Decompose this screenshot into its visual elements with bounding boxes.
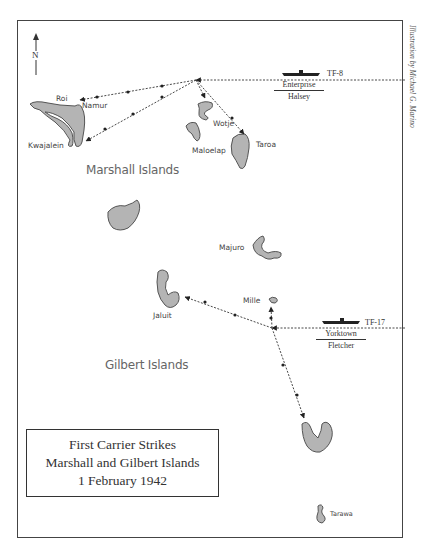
title-line-3: 1 February 1942 <box>27 472 218 490</box>
island-mille <box>269 297 277 303</box>
label-taroa: Taroa <box>256 140 276 149</box>
label-roi: Roi <box>56 94 68 103</box>
label-kwajalein: Kwajalein <box>28 141 64 150</box>
illustration-credit: Illustration by Michael G. Marino <box>408 25 417 128</box>
region-gilbert: Gilbert Islands <box>105 358 188 372</box>
island-majuro <box>253 236 281 259</box>
north-label: N <box>32 51 39 60</box>
region-marshall: Marshall Islands <box>86 163 179 177</box>
map-title-box: First Carrier Strikes Marshall and Gilbe… <box>26 429 219 497</box>
tf8-carrier: Enterprise <box>274 80 324 91</box>
label-wotje: Wotje <box>213 119 234 128</box>
label-mille: Mille <box>243 296 260 305</box>
carrier-icons <box>282 70 360 324</box>
enterprise-ship-icon <box>282 70 320 76</box>
island-wotje <box>198 102 213 120</box>
title-line-1: First Carrier Strikes <box>27 436 218 454</box>
label-tarawa: Tarawa <box>330 510 353 518</box>
label-jaluit: Jaluit <box>153 311 172 320</box>
label-namur: Namur <box>82 101 107 110</box>
tf17-label: TF-17 <box>365 318 385 327</box>
label-maloelap: Maloelap <box>192 146 226 155</box>
tf8-ship-info: Enterprise Halsey <box>274 80 324 101</box>
island-southern <box>302 422 332 452</box>
tf17-carrier: Yorktown <box>316 329 366 340</box>
label-majuro: Majuro <box>219 243 244 252</box>
island-tarawa <box>317 505 325 523</box>
island-jaluit <box>157 270 179 308</box>
tf8-commander: Halsey <box>274 91 324 101</box>
yorktown-ship-icon <box>322 318 360 324</box>
island-maloelap <box>186 122 200 141</box>
tf8-label: TF-8 <box>327 69 343 78</box>
island-kwajalein <box>30 102 85 147</box>
island-unnamed <box>108 200 140 230</box>
tf17-ship-info: Yorktown Fletcher <box>316 329 366 350</box>
title-line-2: Marshall and Gilbert Islands <box>27 454 218 472</box>
tf17-commander: Fletcher <box>316 340 366 350</box>
north-arrow: N <box>30 33 42 77</box>
island-taroa <box>231 134 249 169</box>
